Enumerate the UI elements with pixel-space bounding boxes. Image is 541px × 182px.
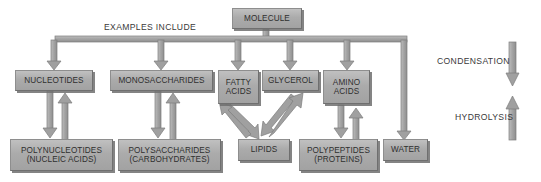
arrow-lipids-to-glycerol bbox=[269, 93, 303, 137]
arrow-bus-to-glycerol bbox=[283, 40, 297, 70]
node-molecule-label: MOLECULE bbox=[235, 14, 299, 23]
distribution-bus bbox=[55, 36, 407, 42]
node-monosaccharides-label: MONOSACCHARIDES bbox=[113, 76, 210, 85]
node-amino-acids-label-line2: ACIDS bbox=[326, 87, 367, 96]
node-lipids: LIPIDS bbox=[238, 139, 290, 161]
arrow-lipids-to-fatty-acids bbox=[219, 101, 251, 138]
node-polysaccharides-label-line1: POLYSACCHARIDES bbox=[129, 146, 211, 155]
node-nucleotides-label: NUCLEOTIDES bbox=[18, 76, 90, 85]
node-polynucleotides: POLYNUCLEOTIDES (NUCLEIC ACIDS) bbox=[10, 139, 113, 171]
arrow-polypeptides-hydrolysis bbox=[349, 108, 363, 140]
examples-include-caption: EXAMPLES INCLUDE bbox=[104, 22, 196, 32]
node-nucleotides: NUCLEOTIDES bbox=[15, 70, 93, 91]
node-polysaccharides: POLYSACCHARIDES (CARBOHYDRATES) bbox=[118, 139, 221, 171]
legend-hydrolysis-label: HYDROLYSIS bbox=[455, 112, 513, 122]
node-molecule: MOLECULE bbox=[232, 8, 302, 29]
arrow-nucleotides-condensation bbox=[43, 90, 57, 138]
arrow-bus-to-water bbox=[397, 40, 411, 140]
node-polypeptides-label-line1: POLYPEPTIDES bbox=[307, 146, 370, 155]
node-amino-acids-label-line1: AMINO bbox=[333, 78, 360, 87]
node-polynucleotides-label-line2: (NUCLEIC ACIDS) bbox=[13, 155, 110, 164]
biological-molecules-diagram: MOLECULE EXAMPLES INCLUDE NUCLEOTIDES MO… bbox=[0, 0, 541, 182]
legend-condensation-label: CONDENSATION bbox=[437, 56, 510, 66]
node-glycerol: GLYCEROL bbox=[262, 70, 319, 91]
node-lipids-label: LIPIDS bbox=[241, 145, 287, 154]
arrow-fatty-acids-to-lipids bbox=[221, 100, 259, 139]
arrow-nucleotides-hydrolysis bbox=[58, 93, 72, 140]
node-polynucleotides-label-line1: POLYNUCLEOTIDES bbox=[21, 146, 102, 155]
node-water-label: WATER bbox=[386, 145, 425, 154]
node-monosaccharides: MONOSACCHARIDES bbox=[110, 70, 213, 91]
arrow-bus-to-nucleotides bbox=[47, 40, 61, 70]
node-water: WATER bbox=[383, 139, 428, 161]
node-fatty-acids-label-line1: FATTY bbox=[226, 78, 251, 87]
arrow-bus-to-amino-acids bbox=[340, 40, 354, 70]
arrow-bus-to-monosaccharides bbox=[154, 40, 168, 70]
node-amino-acids: AMINO ACIDS bbox=[323, 70, 370, 104]
node-fatty-acids: FATTY ACIDS bbox=[218, 70, 259, 104]
node-polysaccharides-label-line2: (CARBOHYDRATES) bbox=[121, 155, 218, 164]
node-fatty-acids-label-line2: ACIDS bbox=[221, 87, 256, 96]
arrow-amino-acids-condensation bbox=[334, 105, 348, 138]
node-polypeptides: POLYPEPTIDES (PROTEINS) bbox=[299, 139, 378, 171]
arrow-glycerol-to-lipids bbox=[261, 94, 296, 136]
arrow-monosaccharides-hydrolysis bbox=[166, 93, 180, 140]
node-polypeptides-label-line2: (PROTEINS) bbox=[302, 155, 375, 164]
node-glycerol-label: GLYCEROL bbox=[265, 76, 316, 85]
arrow-bus-to-fatty-acids bbox=[231, 40, 245, 70]
arrow-monosaccharides-condensation bbox=[151, 90, 165, 138]
arrow-molecule-to-bus bbox=[263, 29, 269, 38]
